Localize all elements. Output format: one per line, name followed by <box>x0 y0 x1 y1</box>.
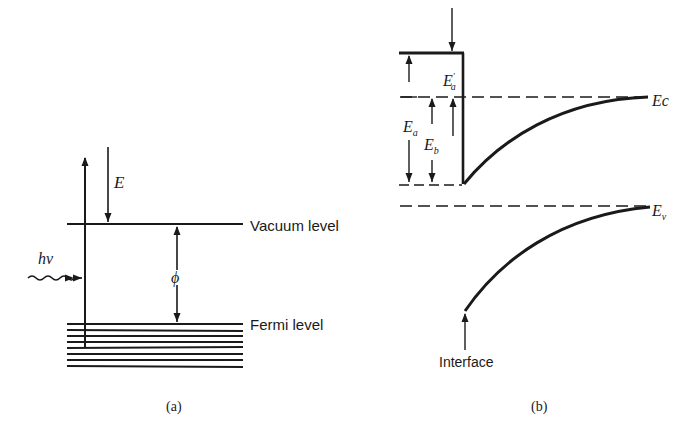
ea-label: Ea <box>402 118 418 138</box>
ea-prime-label: E′a <box>442 71 456 92</box>
interface-label: Interface <box>439 354 494 370</box>
ec-label: Ec <box>651 92 669 109</box>
work-function-label: ϕ <box>171 269 179 287</box>
caption-b: (b) <box>531 399 548 415</box>
eb-label: Eb <box>423 136 439 156</box>
photon-wave <box>28 276 74 280</box>
panel-a: E Vacuum level ϕ hν Fermi level (a) <box>28 147 339 415</box>
valence-band-curve <box>465 207 650 311</box>
photon-label: hν <box>38 250 54 267</box>
panel-b: Ec Ea Eb E′a Ev Interface (b) <box>399 8 669 415</box>
fermi-level-label: Fermi level <box>250 316 323 333</box>
energy-label: E <box>113 173 125 192</box>
ev-label: Ev <box>651 202 667 222</box>
vacuum-level-label: Vacuum level <box>250 217 339 234</box>
conduction-band-curve <box>464 97 648 184</box>
filled-states-hatching <box>67 330 243 367</box>
band-diagram: E Vacuum level ϕ hν Fermi level (a) <box>0 0 693 438</box>
caption-a: (a) <box>166 399 182 415</box>
